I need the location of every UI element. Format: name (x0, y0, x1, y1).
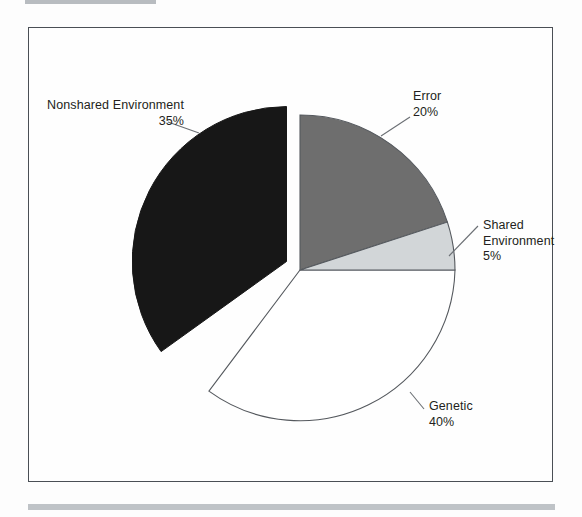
slice-label-genetic-name: Genetic (429, 399, 509, 415)
slice-label-shared-environment-value: 5% (483, 249, 573, 265)
leader-line-shared-environment (449, 226, 478, 256)
leader-line-genetic (410, 392, 424, 409)
slice-label-nonshared-environment: Nonshared Environment 35% (44, 98, 184, 129)
slice-label-error-name: Error (413, 89, 483, 105)
slice-label-shared-environment-name-line1: Shared (483, 218, 573, 234)
slice-label-shared-environment: Shared Environment 5% (483, 218, 573, 265)
pie-slice-nonshared-environment[interactable] (132, 107, 286, 352)
slice-label-nonshared-environment-value: 35% (44, 114, 184, 130)
slice-label-genetic: Genetic 40% (429, 399, 509, 430)
slice-label-shared-environment-name-line2: Environment (483, 234, 573, 250)
pie-slice-nonshared-environment-group[interactable] (132, 107, 286, 352)
slice-label-error-value: 20% (413, 105, 483, 121)
slice-label-genetic-value: 40% (429, 415, 509, 431)
bottom-rule-decoration (28, 504, 555, 510)
pie-slice-genetic[interactable] (209, 270, 455, 421)
leader-line-error (381, 117, 410, 136)
slice-label-nonshared-environment-name: Nonshared Environment (44, 98, 184, 114)
slice-label-error: Error 20% (413, 89, 483, 120)
chart-page: Nonshared Environment 35% Error 20% Shar… (0, 0, 582, 517)
